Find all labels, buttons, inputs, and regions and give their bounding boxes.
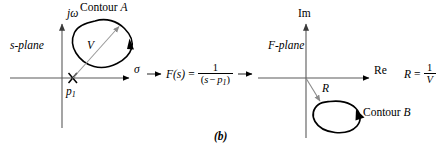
pole-subscript: 1 <box>72 90 76 99</box>
s-plane-letter: s-plane <box>10 39 44 51</box>
f-plane-label: F-plane <box>268 40 304 52</box>
pole-label-p1: p1 <box>66 86 76 99</box>
figure-caption: (b) <box>214 131 227 143</box>
equals-sign: = <box>185 68 198 80</box>
den-minus: − <box>208 74 217 85</box>
vector-v-label: V <box>87 40 94 52</box>
contour-b-word: Contour <box>363 106 401 118</box>
contour-a-path <box>73 20 133 68</box>
vector-r-label: R <box>322 83 329 95</box>
contour-b-label: Contour B <box>363 107 411 119</box>
contour-b-letter: B <box>404 106 411 118</box>
r-equals-one-over-v: R = 1 V <box>404 62 436 85</box>
f-plane-imaginary-axis-label: Im <box>298 8 311 20</box>
den-close-paren: ) <box>226 74 230 85</box>
f-plane-real-axis-label: Re <box>374 65 387 77</box>
function-name: F(s) <box>166 68 185 80</box>
relation-equals: = <box>411 68 424 80</box>
fraction: 1 (s−p1) <box>198 62 233 87</box>
s-plane-label: s-plane <box>10 40 44 52</box>
contour-a-letter: A <box>121 1 128 13</box>
fraction-denominator: (s−p1) <box>198 73 233 87</box>
contour-a-label: Contour A <box>80 2 128 14</box>
figure-conformal-mapping: s-plane jω σ Contour A V p1 F(s) = 1 (s−… <box>0 0 447 149</box>
vector-r <box>307 79 321 101</box>
relation-r: R <box>404 68 411 80</box>
relation-denominator: V <box>424 73 436 85</box>
transfer-function-formula: F(s) = 1 (s−p1) <box>166 62 233 87</box>
fraction-numerator: 1 <box>198 62 233 73</box>
f-plane-letter: F-plane <box>268 39 304 51</box>
contour-a-word: Contour <box>80 1 118 13</box>
relation-fraction: 1 V <box>424 62 436 85</box>
contour-b-path <box>313 101 360 133</box>
vector-v <box>73 27 120 79</box>
s-plane-real-axis-label: σ <box>134 64 140 76</box>
relation-numerator: 1 <box>424 62 436 73</box>
s-plane-imaginary-axis-label: jω <box>67 8 78 20</box>
